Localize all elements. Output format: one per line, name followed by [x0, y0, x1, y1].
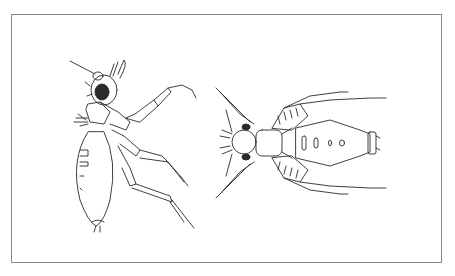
- insect-illustration: [0, 0, 455, 276]
- insect-dorsal-view: [216, 88, 386, 198]
- insect-lateral-view: [70, 60, 196, 232]
